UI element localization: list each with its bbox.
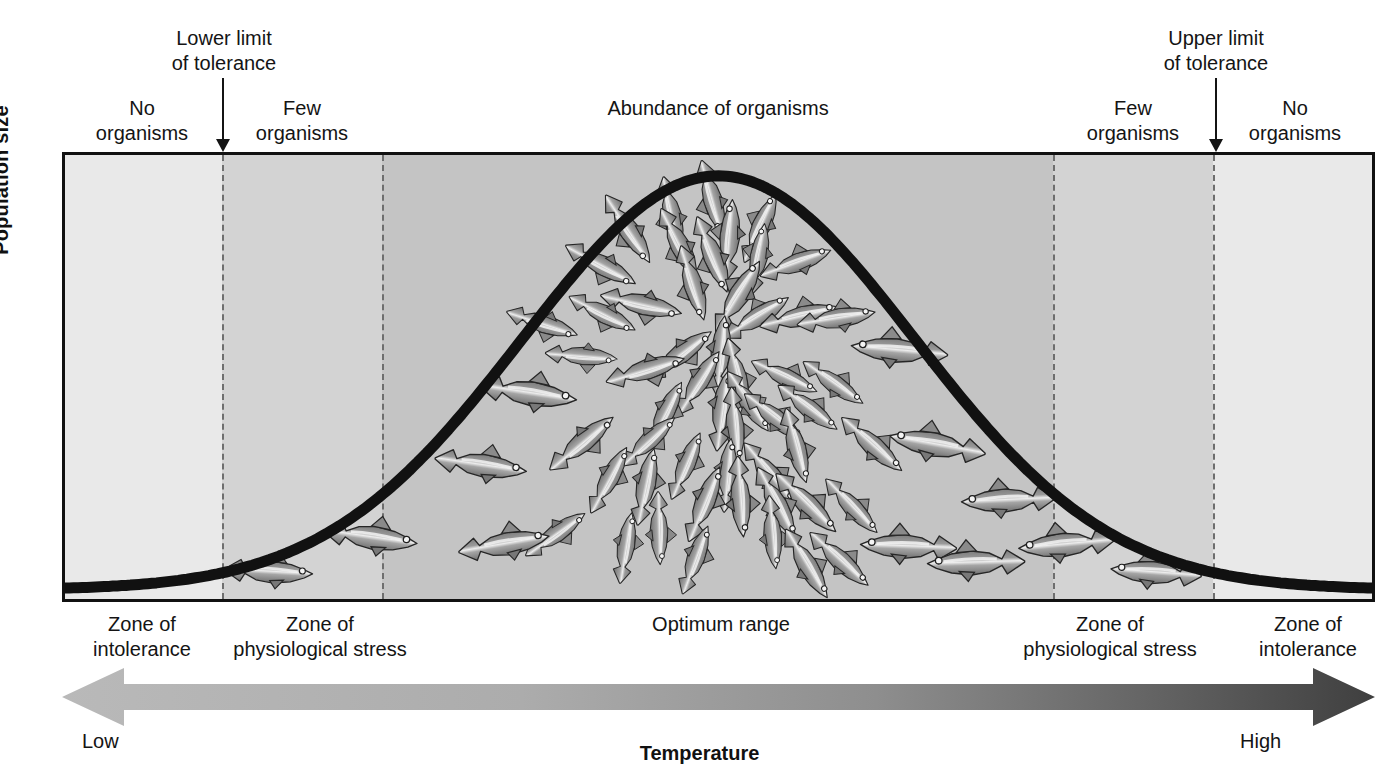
few-organisms-left-line-2: organisms [222,121,382,146]
stress-right-line-2: physiological stress [965,637,1255,662]
temperature-gradient-arrow-icon [62,668,1375,726]
stress-right-line-1: Zone of [965,612,1255,637]
zone-label-stress-left: Zone of physiological stress [175,612,465,662]
zone-label-stress-right: Zone of physiological stress [965,612,1255,662]
x-axis-label: Temperature [0,742,1399,765]
intolerance-right-line-2: intolerance [1218,637,1398,662]
plot-area [62,152,1375,602]
no-organisms-left-line-1: No [62,96,222,121]
no-organisms-left-line-2: organisms [62,121,222,146]
top-label-few-organisms-left: Few organisms [222,96,382,146]
zone-label-intolerance-right: Zone of intolerance [1218,612,1398,662]
few-organisms-left-line-1: Few [222,96,382,121]
top-label-abundance-of-organisms: Abundance of organisms [384,96,1052,121]
lower-limit-line-1: Lower limit [132,26,316,51]
few-organisms-right-line-1: Few [1053,96,1213,121]
few-organisms-right-line-2: organisms [1053,121,1213,146]
no-organisms-right-line-1: No [1215,96,1375,121]
stress-left-line-1: Zone of [175,612,465,637]
intolerance-right-line-1: Zone of [1218,612,1398,637]
top-label-few-organisms-right: Few organisms [1053,96,1213,146]
top-label-no-organisms-right: No organisms [1215,96,1375,146]
lower-limit-line-2: of tolerance [132,51,316,76]
upper-limit-of-tolerance-label: Upper limit of tolerance [1124,26,1308,76]
top-label-no-organisms-left: No organisms [62,96,222,146]
upper-limit-line-2: of tolerance [1124,51,1308,76]
zone-label-optimum-range: Optimum range [486,612,956,637]
stress-left-line-2: physiological stress [175,637,465,662]
no-organisms-right-line-2: organisms [1215,121,1375,146]
upper-limit-line-1: Upper limit [1124,26,1308,51]
population-size-curve [65,155,1372,599]
lower-limit-of-tolerance-label: Lower limit of tolerance [132,26,316,76]
y-axis-label: Population size [0,60,13,300]
